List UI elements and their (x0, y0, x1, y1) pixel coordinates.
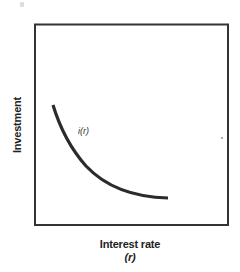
y-axis-label-text: Investment (11, 97, 23, 153)
chart-plot (0, 0, 240, 272)
x-axis-symbol: (r) (100, 251, 160, 264)
x-axis-label: Interest rate (r) (100, 238, 160, 264)
plot-frame (35, 25, 228, 226)
x-axis-label-text: Interest rate (100, 238, 160, 251)
investment-curve (53, 105, 168, 198)
curve-label: i(r) (78, 126, 89, 136)
stray-dot (221, 137, 223, 139)
y-axis-label: Investment (11, 97, 23, 153)
curve-label-text: i(r) (78, 126, 89, 136)
